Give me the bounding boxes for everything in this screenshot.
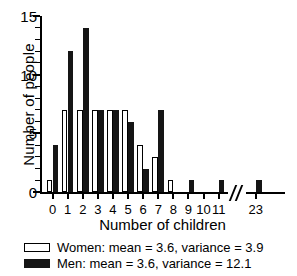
y-tick-minor [35,109,40,110]
legend: Women: mean = 3.6, variance = 3.9 Men: m… [24,240,284,272]
x-tick-label: 23 [249,203,263,216]
x-tick [218,194,220,199]
x-tick [82,194,84,199]
x-tick-label: 0 [49,203,56,216]
x-tick-label: 2 [79,203,86,216]
y-tick-minor [35,98,40,99]
y-tick-label: 0 [29,185,37,200]
y-axis-title: Number of people [20,25,37,185]
x-axis-title: Number of children [40,216,285,233]
x-tick [97,194,99,199]
bar-women-8 [168,180,174,192]
bar-men-0 [53,145,59,192]
legend-label-women: Women: mean = 3.6, variance = 3.9 [57,241,263,254]
y-tick-minor [35,121,40,122]
bar-men-6 [143,169,149,192]
y-tick-label: 15 [20,9,37,24]
bar-women-6 [137,145,143,192]
bar-men-4 [113,110,119,192]
legend-item-men: Men: mean = 3.6, variance = 12.1 [24,256,284,270]
y-tick-label: 5 [29,126,37,141]
x-tick [127,194,129,199]
bar-men-11 [219,180,225,192]
x-tick [157,194,159,199]
x-tick [112,194,114,199]
bar-men-2 [83,28,89,192]
x-tick [203,194,205,199]
bar-men-7 [158,110,164,192]
x-tick [187,194,189,199]
legend-item-women: Women: mean = 3.6, variance = 3.9 [24,240,284,254]
x-axis-line [40,192,285,194]
bar-women-4 [107,110,113,192]
y-tick-minor [35,27,40,28]
y-tick-minor [35,39,40,40]
axis-break-marker [228,185,246,201]
bar-men-23 [256,180,262,192]
y-tick-label: 10 [20,67,37,82]
x-tick [52,194,54,199]
bar-women-0 [47,180,53,192]
legend-label-men: Men: mean = 3.6, variance = 12.1 [57,257,251,270]
y-tick-minor [35,156,40,157]
x-tick-label: 10 [196,203,210,216]
bar-men-1 [68,51,74,192]
bar-men-5 [128,122,134,192]
x-tick-label: 8 [170,203,177,216]
y-tick-minor [35,51,40,52]
bar-men-3 [98,110,104,192]
legend-swatch-men-icon [24,259,50,268]
bar-women-1 [62,110,68,192]
bar-women-3 [92,110,98,192]
x-tick-label: 3 [94,203,101,216]
x-tick [142,194,144,199]
bar-women-5 [122,110,128,192]
x-tick-label: 11 [212,203,226,216]
y-tick-minor [35,168,40,169]
bar-men-9 [189,180,195,192]
x-tick-label: 1 [64,203,71,216]
bar-women-7 [152,157,158,192]
x-tick [172,194,174,199]
x-tick-label: 4 [109,203,116,216]
x-tick-label: 7 [155,203,162,216]
y-axis-line [40,16,42,194]
histogram-figure: Number of people 051015 0123456789101123… [0,0,297,276]
y-tick-minor [35,180,40,181]
x-tick-label: 9 [185,203,192,216]
x-tick [255,194,257,199]
y-tick-minor [35,62,40,63]
x-tick [67,194,69,199]
x-tick-label: 6 [140,203,147,216]
x-tick-label: 5 [124,203,131,216]
plot-area: 051015 0123456789101123 [40,16,285,194]
y-tick-minor [35,145,40,146]
legend-swatch-women-icon [24,243,50,252]
y-tick-minor [35,86,40,87]
bar-women-2 [77,110,83,192]
